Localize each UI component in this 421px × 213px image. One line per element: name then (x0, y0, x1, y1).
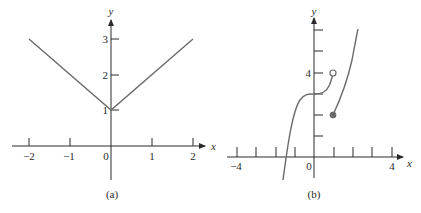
panel-a-ytick-label: 3 (103, 33, 109, 45)
panel-b-y-axis-label: y (311, 5, 317, 17)
panel-b-xtick-label: 0 (306, 160, 312, 172)
panel-b-ytick-label: 4 (306, 67, 312, 79)
panel-b-filled-point (330, 112, 336, 118)
panel-b-caption: (b) (308, 188, 321, 201)
panel-b-y-ticks (314, 30, 323, 136)
panel-a-xtick-label: −1 (63, 150, 75, 162)
panel-b-xtick-label: 4 (389, 160, 395, 172)
panel-a-y-ticks (111, 39, 119, 110)
panel-b-xtick-label: −4 (230, 160, 242, 172)
panel-a: −2 −1 0 1 2 1 2 3 y x (a) (12, 5, 216, 201)
panel-a-caption: (a) (106, 188, 119, 201)
panel-a-xtick-label: −2 (23, 150, 35, 162)
panel-a-xtick-label: 1 (149, 150, 155, 162)
panel-b-curve-right (333, 29, 358, 115)
panel-b-open-point (330, 70, 336, 76)
panel-a-x-axis-label: x (210, 140, 216, 152)
panel-a-xtick-label: 2 (190, 150, 196, 162)
panel-a-xtick-label: 0 (103, 150, 109, 162)
panel-a-y-axis-label: y (108, 5, 114, 17)
panel-a-ytick-label: 2 (103, 69, 109, 81)
panel-b: −4 0 4 4 y x (b) (227, 5, 412, 201)
figure: −2 −1 0 1 2 1 2 3 y x (a) (0, 0, 421, 213)
panel-b-x-axis-label: x (406, 157, 412, 169)
